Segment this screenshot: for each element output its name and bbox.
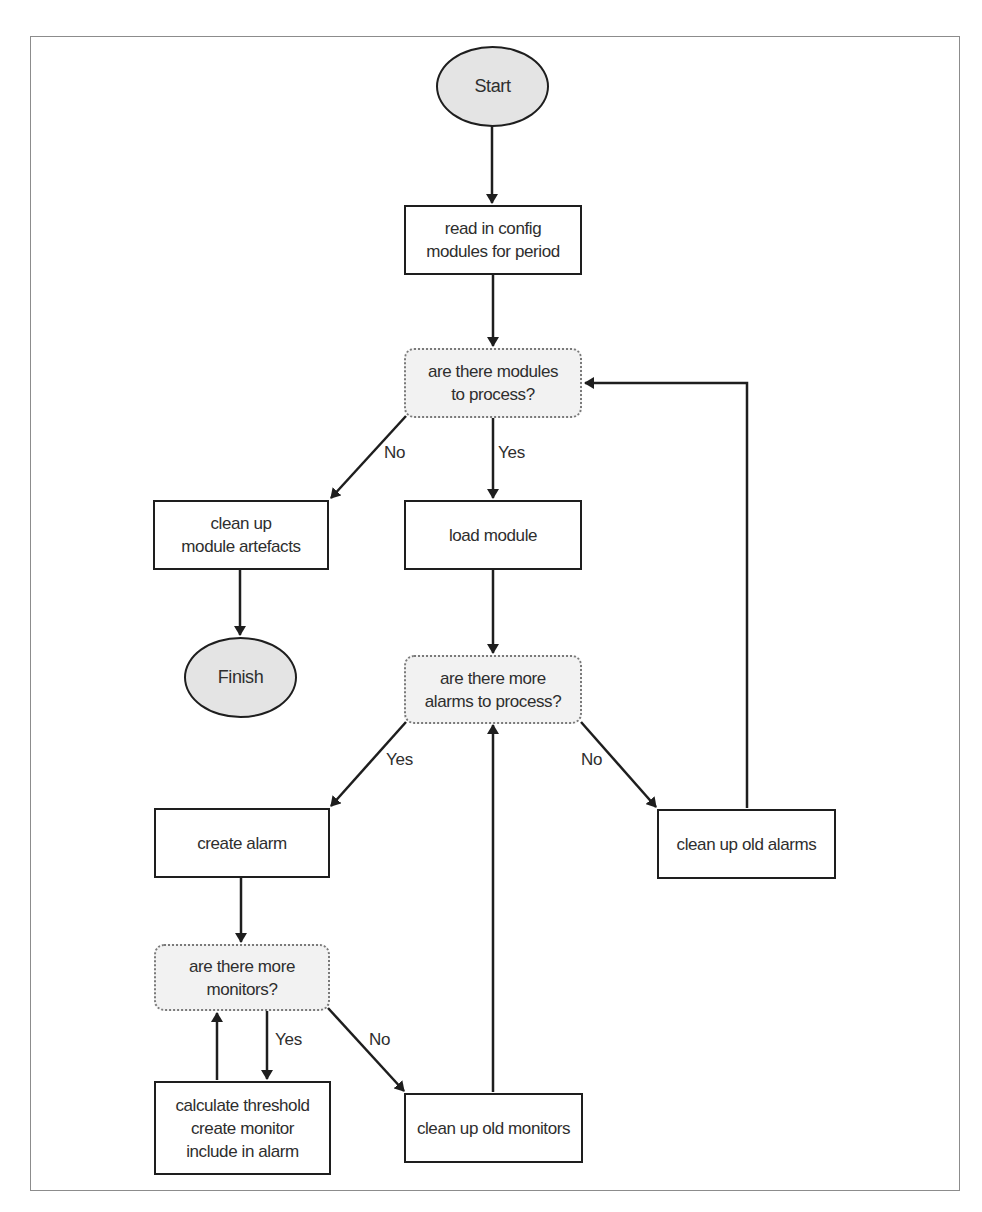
read-config-node: read in config modules for period [404,205,582,275]
cleanup-alarms-node: clean up old alarms [657,809,836,879]
cleanup-artefacts-label: clean up module artefacts [181,512,300,558]
calculate-threshold-node: calculate threshold create monitor inclu… [154,1081,331,1175]
finish-label: Finish [218,666,264,689]
cleanup-monitors-label: clean up old monitors [417,1117,570,1140]
edge-label-modules-no: No [384,443,405,463]
monitors-decision-node: are there more monitors? [154,944,330,1011]
edge-cleanup-alarms-loopback [585,383,747,808]
read-config-label: read in config modules for period [426,217,560,263]
edge-label-alarms-yes: Yes [386,750,413,770]
alarms-decision-node: are there more alarms to process? [404,655,582,724]
monitors-decision-label: are there more monitors? [189,955,295,1001]
start-node: Start [436,46,549,127]
load-module-label: load module [449,524,537,547]
cleanup-alarms-label: clean up old alarms [677,833,817,856]
alarms-decision-label: are there more alarms to process? [425,667,561,713]
flowchart-canvas: Start read in config modules for period … [0,0,982,1212]
edge-label-alarms-no: No [581,750,602,770]
connector-layer [0,0,982,1212]
edge-label-modules-yes: Yes [498,443,525,463]
edge-monitors-no [328,1008,404,1091]
cleanup-monitors-node: clean up old monitors [404,1093,583,1163]
create-alarm-node: create alarm [154,808,330,878]
create-alarm-label: create alarm [197,832,287,855]
modules-decision-node: are there modules to process? [404,348,582,418]
finish-node: Finish [184,637,297,718]
start-label: Start [474,75,510,98]
calculate-threshold-label: calculate threshold create monitor inclu… [175,1094,309,1163]
edge-label-monitors-no: No [369,1030,390,1050]
modules-decision-label: are there modules to process? [428,360,558,406]
cleanup-artefacts-node: clean up module artefacts [153,500,329,570]
load-module-node: load module [404,500,582,570]
edge-label-monitors-yes: Yes [275,1030,302,1050]
